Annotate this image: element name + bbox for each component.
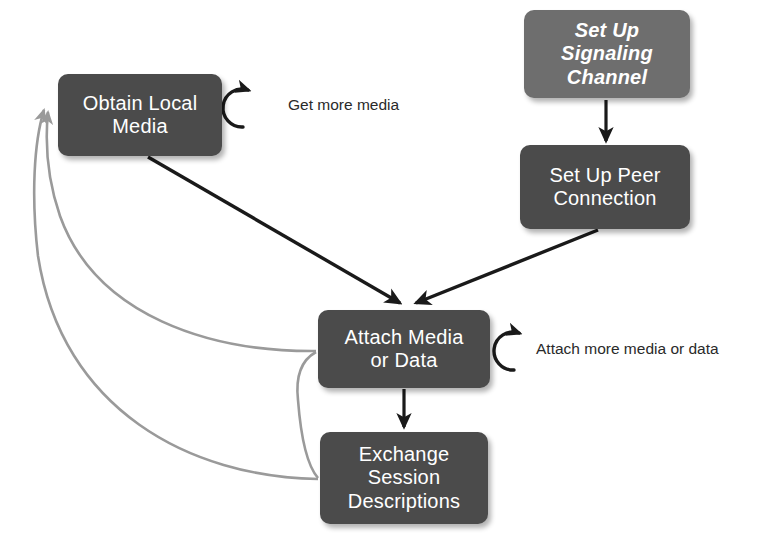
edge-obtain-to-attach [148, 157, 400, 303]
obtain-self-loop-arc [223, 89, 248, 127]
node-set-up-signaling-channel[interactable]: Set Up Signaling Channel [524, 10, 690, 98]
edge-attach-to-exchange-curve [297, 352, 318, 478]
edge-exchange-back-to-obtain [34, 110, 318, 479]
node-attach-media-or-data[interactable]: Attach Media or Data [318, 310, 490, 388]
self-loop-label-attach-more-media-or-data: Attach more media or data [536, 340, 719, 358]
node-set-up-peer-connection[interactable]: Set Up Peer Connection [520, 145, 690, 229]
diagram-canvas: Set Up Signaling Channel Set Up Peer Con… [0, 0, 776, 558]
node-label: Attach Media or Data [318, 326, 490, 372]
node-label: Set Up Signaling Channel [524, 19, 690, 89]
edge-peer-to-attach [416, 230, 598, 303]
node-exchange-session-descriptions[interactable]: Exchange Session Descriptions [320, 432, 488, 524]
node-obtain-local-media[interactable]: Obtain Local Media [58, 74, 222, 156]
attach-self-loop-arc [494, 332, 519, 370]
node-label: Exchange Session Descriptions [320, 443, 488, 513]
node-label: Obtain Local Media [58, 92, 222, 138]
self-loop-label-get-more-media: Get more media [288, 96, 399, 114]
node-label: Set Up Peer Connection [520, 164, 690, 210]
